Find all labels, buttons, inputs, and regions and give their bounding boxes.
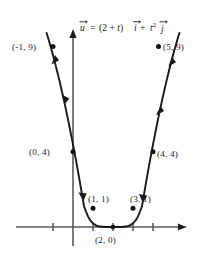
parabola-curve [47, 33, 180, 227]
parabola-path [47, 33, 180, 227]
point-label-3-1: (3, 1) [130, 194, 151, 204]
equation-equals: = [90, 22, 95, 33]
point-label-0-4: (0, 4) [29, 147, 50, 157]
point-label-5-9: (5, 9) [163, 42, 184, 52]
point-label-1-1: (1, 1) [88, 194, 109, 204]
equation-u-letter: u [80, 22, 85, 33]
equation-t-squared: t2 [150, 21, 156, 33]
point-labels: (-1, 9) (0, 4) (1, 1) (2, 0) (3, 1) (4, … [12, 42, 184, 245]
point-label-neg1-9: (-1, 9) [12, 42, 36, 52]
data-point-t-neg1 [91, 206, 96, 211]
equation-j-letter: j [159, 23, 164, 34]
data-point-t-neg2 [71, 149, 76, 154]
y-axis-arrowhead [69, 29, 76, 38]
data-point-t-neg3 [51, 44, 56, 49]
equation-plus: + [140, 22, 145, 33]
plot-canvas: (-1, 9) (0, 4) (1, 1) (2, 0) (3, 1) (4, … [0, 0, 208, 255]
data-point-t-0 [111, 225, 116, 230]
direction-arrow-5 [168, 57, 176, 67]
equation-label: u = (2 + t) i + t2 j [80, 21, 168, 34]
parabola-figure: (-1, 9) (0, 4) (1, 1) (2, 0) (3, 1) (4, … [0, 0, 208, 255]
y-axis [69, 29, 76, 246]
equation-u-symbol: u [80, 22, 85, 33]
equation-open-paren: (2 + t) [99, 22, 123, 34]
data-point-t-1 [131, 206, 136, 211]
data-point-t-3 [156, 44, 161, 49]
point-label-4-4: (4, 4) [157, 149, 178, 159]
equation-i-letter: i [134, 22, 137, 33]
x-axis-arrowhead [178, 223, 186, 230]
point-label-2-0: (2, 0) [95, 235, 116, 245]
data-point-t-2 [151, 149, 156, 154]
